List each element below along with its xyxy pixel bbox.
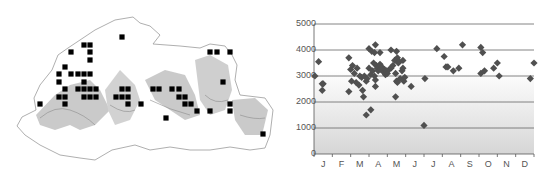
occurrence-marker: [81, 42, 86, 47]
occurrence-marker: [81, 71, 86, 76]
occurrence-marker: [62, 94, 67, 99]
occurrence-marker: [227, 108, 232, 113]
occurrence-marker: [68, 71, 73, 76]
occurrence-marker: [75, 71, 80, 76]
occurrence-marker: [81, 86, 86, 91]
x-tick-label: F: [335, 159, 349, 169]
occurrence-marker: [87, 57, 92, 62]
x-tick-label: N: [500, 159, 514, 169]
occurrence-marker: [194, 108, 199, 113]
occurrence-marker: [81, 79, 86, 84]
occurrence-marker: [260, 131, 265, 136]
elevation-scatter-chart: 010002000300040005000 JFMAMJJASOND: [290, 0, 554, 175]
y-tick-label: 4000: [282, 44, 316, 54]
occurrence-marker: [37, 101, 42, 106]
x-axis-ticks: [314, 154, 534, 157]
occurrence-marker: [176, 86, 181, 91]
occurrence-marker: [214, 49, 219, 54]
occurrence-marker: [62, 86, 67, 91]
occurrence-marker: [119, 94, 124, 99]
occurrence-marker: [56, 94, 61, 99]
occurrence-marker: [169, 86, 174, 91]
occurrence-marker: [182, 101, 187, 106]
y-tick-label: 3000: [282, 70, 316, 80]
occurrence-marker: [156, 86, 161, 91]
occurrence-marker: [87, 42, 92, 47]
occurrence-marker: [188, 101, 193, 106]
occurrence-marker: [150, 86, 155, 91]
occurrence-marker: [182, 94, 187, 99]
occurrence-marker: [87, 94, 92, 99]
occurrence-marker: [220, 79, 225, 84]
occurrence-marker: [163, 115, 168, 120]
occurrence-marker: [81, 94, 86, 99]
chart-plot: [290, 0, 554, 175]
occurrence-marker: [227, 101, 232, 106]
occurrence-marker: [56, 79, 61, 84]
occurrence-marker: [227, 49, 232, 54]
occurrence-marker: [56, 71, 61, 76]
occurrence-marker: [138, 101, 143, 106]
occurrence-marker: [125, 101, 130, 106]
occurrence-marker: [119, 34, 124, 39]
occurrence-marker: [93, 86, 98, 91]
occurrence-marker: [125, 94, 130, 99]
x-tick-label: M: [390, 159, 404, 169]
occurrence-marker: [62, 64, 67, 69]
distribution-map: [0, 0, 290, 175]
x-tick-label: O: [481, 159, 495, 169]
occurrence-marker: [113, 94, 118, 99]
occurrence-marker: [93, 94, 98, 99]
occurrence-marker: [119, 86, 124, 91]
occurrence-marker: [125, 86, 130, 91]
plot-area: [314, 24, 534, 154]
y-tick-label: 1000: [282, 122, 316, 132]
y-tick-label: 5000: [282, 18, 316, 28]
x-tick-label: J: [316, 159, 330, 169]
country-border: [17, 17, 273, 160]
occurrence-marker: [87, 86, 92, 91]
y-tick-label: 2000: [282, 96, 316, 106]
occurrence-marker: [62, 101, 67, 106]
x-tick-label: M: [353, 159, 367, 169]
x-tick-label: J: [408, 159, 422, 169]
occurrence-marker: [87, 71, 92, 76]
occurrence-marker: [207, 108, 212, 113]
x-tick-label: A: [371, 159, 385, 169]
y-tick-label: 0: [282, 148, 316, 158]
occurrence-marker: [87, 49, 92, 54]
occurrence-marker: [176, 94, 181, 99]
x-tick-label: D: [518, 159, 532, 169]
occurrence-marker: [68, 49, 73, 54]
occurrence-marker: [207, 49, 212, 54]
x-tick-label: J: [426, 159, 440, 169]
x-tick-label: S: [463, 159, 477, 169]
occurrence-marker: [75, 86, 80, 91]
x-tick-label: A: [445, 159, 459, 169]
